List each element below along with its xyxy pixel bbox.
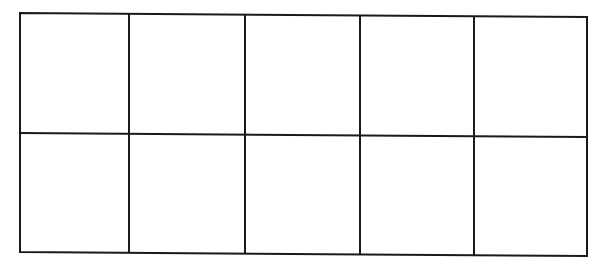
grid-row-divider <box>20 133 587 137</box>
grid-diagram <box>0 0 604 261</box>
grid-lines <box>20 13 587 256</box>
